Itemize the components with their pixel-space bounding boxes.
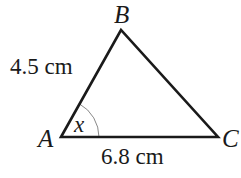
vertex-label-b: B (114, 1, 129, 28)
vertex-label-a: A (36, 125, 54, 152)
triangle-abc (61, 30, 218, 137)
triangle-svg: B A C 4.5 cm 6.8 cm x (0, 0, 241, 178)
side-label-ac: 6.8 cm (101, 144, 164, 169)
vertex-label-c: C (222, 125, 239, 152)
triangle-diagram: B A C 4.5 cm 6.8 cm x (0, 0, 241, 178)
angle-label-x: x (73, 112, 85, 137)
side-label-ab: 4.5 cm (10, 54, 73, 79)
